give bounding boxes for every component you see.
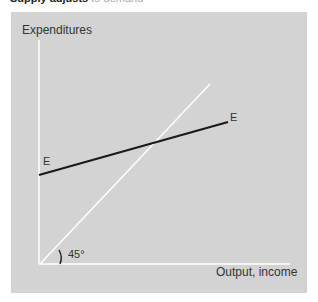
45-degree-line <box>40 84 210 264</box>
y-axis-label: Expenditures <box>22 23 92 37</box>
e-label-left: E <box>43 155 50 167</box>
expenditure-line-e <box>39 122 228 175</box>
chart-canvas <box>0 0 318 302</box>
angle-arc <box>59 250 61 264</box>
x-axis-label: Output, income <box>216 265 297 279</box>
angle-label: 45° <box>68 248 85 260</box>
e-label-right: E <box>230 111 237 123</box>
